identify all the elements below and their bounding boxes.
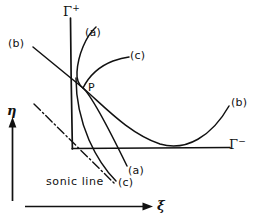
label-point-p: P — [88, 82, 95, 93]
label-branch-c-top: (c) — [130, 50, 145, 61]
label-axis-xi: ξ — [157, 199, 165, 212]
label-gamma-plus-superscript: + — [72, 3, 80, 13]
curve-a — [77, 27, 127, 166]
flow-field-characteristics-diagram: Γ+ Γ− P (b) (b) (a) (a) (c) (c) sonic li… — [0, 0, 256, 213]
curve-gamma-minus — [72, 148, 230, 149]
label-gamma-minus-glyph: Γ — [229, 137, 238, 152]
label-branch-b-right: (b) — [231, 97, 247, 108]
curve-gamma-plus — [71, 18, 73, 149]
label-branch-b-left: (b) — [8, 38, 24, 49]
label-gamma-minus-superscript: − — [238, 136, 246, 146]
label-axis-eta: η — [7, 104, 17, 117]
label-sonic-line: sonic line — [46, 176, 104, 187]
label-branch-a-top: (a) — [85, 27, 101, 38]
label-branch-c-bottom: (c) — [118, 177, 133, 188]
axis-eta — [9, 117, 17, 201]
label-gamma-plus: Γ+ — [63, 4, 80, 18]
label-branch-a-bottom: (a) — [128, 165, 144, 176]
axis-xi — [25, 203, 153, 211]
label-gamma-plus-glyph: Γ — [63, 4, 72, 19]
label-gamma-minus: Γ− — [229, 137, 246, 151]
curve-sonic-line — [34, 104, 116, 185]
